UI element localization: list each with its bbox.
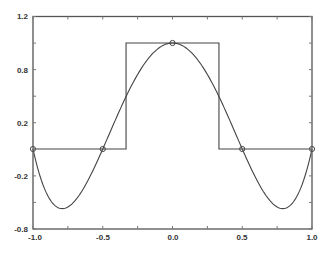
x-tick-label: -0.5 (96, 233, 110, 242)
y-tick-label: -0.8 (14, 225, 28, 234)
polynomial-curve (33, 43, 312, 209)
square-pulse-line (33, 43, 312, 149)
y-tick-label: 1.2 (17, 12, 29, 21)
x-tick-label: 1.0 (306, 233, 318, 242)
plot-frame (33, 17, 312, 230)
x-tick-label: -1.0 (28, 233, 42, 242)
axis-ticks (33, 17, 312, 230)
x-tick-label: 0.0 (167, 233, 179, 242)
y-tick-label: 0.2 (17, 119, 29, 128)
x-axis-labels: -1.0 -0.5 0.0 0.5 1.0 (28, 233, 318, 242)
y-tick-label: 0.8 (17, 66, 29, 75)
x-tick-label: 0.5 (236, 233, 248, 242)
y-tick-label: -0.2 (14, 172, 28, 181)
plot-area (30, 40, 314, 208)
chart-canvas: 1.2 0.8 0.2 -0.2 -0.8 -1.0 -0.5 0.0 0.5 … (0, 0, 332, 254)
y-axis-labels: 1.2 0.8 0.2 -0.2 -0.8 (14, 12, 28, 234)
